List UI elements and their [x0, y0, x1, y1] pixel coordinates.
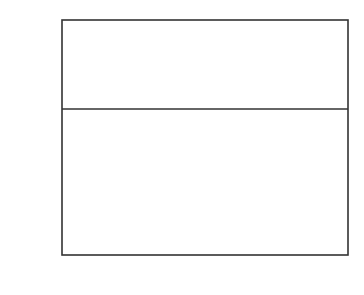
chart-frame	[62, 20, 348, 255]
chart	[0, 0, 364, 295]
